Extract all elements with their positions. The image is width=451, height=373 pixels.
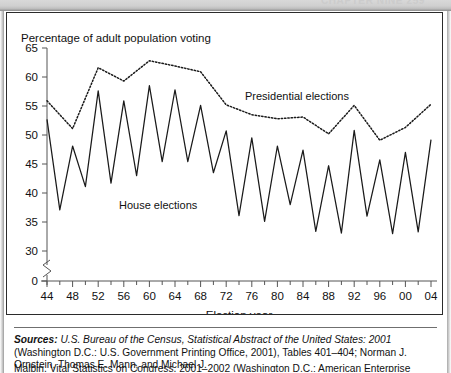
page-header-strip: CHAPTER NINE 259 (0, 0, 451, 11)
svg-text:84: 84 (297, 290, 310, 302)
svg-text:30: 30 (25, 245, 38, 257)
svg-text:55: 55 (25, 100, 38, 112)
svg-text:96: 96 (373, 290, 386, 302)
svg-text:52: 52 (92, 290, 105, 302)
source-citation-rest: (Washington D.C.: U.S. (14, 347, 120, 358)
source-citation-line3: Malbin, Vital Statistics on Congress, 20… (14, 363, 441, 372)
svg-text:44: 44 (41, 290, 54, 302)
svg-text:56: 56 (117, 290, 130, 302)
svg-text:80: 80 (271, 290, 284, 302)
svg-text:48: 48 (66, 290, 79, 302)
series-label-presidential: Presidential elections (245, 90, 349, 102)
svg-text:60: 60 (25, 71, 38, 83)
svg-text:72: 72 (220, 290, 233, 302)
svg-text:0: 0 (32, 275, 38, 287)
svg-text:04: 04 (425, 290, 438, 302)
series-dotted (47, 61, 431, 140)
series-solid (47, 86, 431, 234)
page-left-edge (0, 11, 4, 373)
series-label-house: House elections (119, 199, 198, 211)
svg-text:64: 64 (169, 290, 182, 302)
page-right-edge (447, 11, 451, 373)
figure-panel: Percentage of adult population voting 30… (6, 12, 443, 315)
svg-text:88: 88 (322, 290, 335, 302)
svg-text:Election year: Election year (206, 309, 273, 314)
source-citation-title: U.S. Bureau of the Census, Statistical A… (60, 334, 391, 345)
svg-text:65: 65 (25, 42, 38, 54)
svg-text:50: 50 (25, 129, 38, 141)
svg-text:35: 35 (25, 216, 38, 228)
svg-text:00: 00 (399, 290, 412, 302)
svg-text:60: 60 (143, 290, 156, 302)
page-header-text: CHAPTER NINE 259 (321, 0, 425, 4)
line-chart: 3035404550556065044485256606468727680848… (7, 13, 442, 314)
source-divider (14, 327, 437, 328)
svg-text:76: 76 (245, 290, 258, 302)
source-label: Sources: (14, 334, 58, 345)
svg-text:92: 92 (348, 290, 361, 302)
svg-text:45: 45 (25, 158, 38, 170)
svg-text:68: 68 (194, 290, 207, 302)
svg-text:40: 40 (25, 187, 38, 199)
